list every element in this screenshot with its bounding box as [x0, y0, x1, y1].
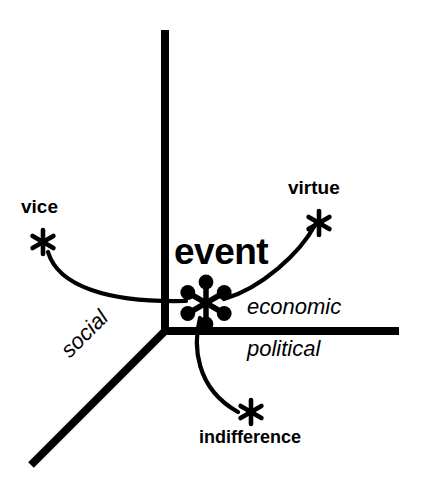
- axis-diagonal: [31, 330, 166, 465]
- event-label: event: [174, 233, 268, 270]
- six-spoke-node-icon: [180, 275, 231, 332]
- vice-label: vice: [21, 197, 58, 216]
- virtue-label: virtue: [288, 178, 340, 197]
- asterisk-icon-indifference: [241, 400, 262, 424]
- indifference-label: indifference: [199, 428, 301, 446]
- axis-label-political: political: [247, 338, 320, 360]
- axis-label-economic: economic: [247, 296, 341, 318]
- asterisk-icon-vice: [33, 230, 54, 254]
- diagram-canvas: event vice virtue indifference economic …: [0, 0, 423, 491]
